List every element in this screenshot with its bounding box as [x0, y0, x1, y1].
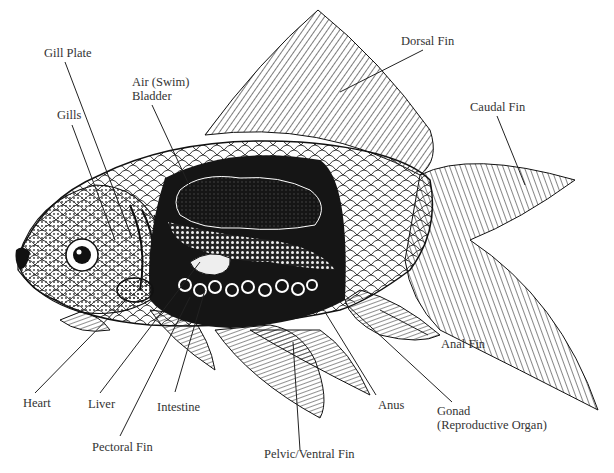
label-intestine: Intestine	[157, 400, 200, 414]
label-liver: Liver	[88, 397, 115, 411]
label-pectoral-fin: Pectoral Fin	[92, 440, 153, 454]
label-gonad-line2: (Reproductive Organ)	[437, 418, 547, 432]
heart	[117, 278, 153, 302]
label-air-bladder-line2: Bladder	[132, 89, 189, 103]
label-air-bladder: Air (Swim) Bladder	[132, 75, 189, 103]
label-dorsal-fin: Dorsal Fin	[401, 34, 454, 48]
label-gills: Gills	[57, 108, 81, 122]
label-air-bladder-line1: Air (Swim)	[132, 75, 189, 89]
label-anal-fin: Anal Fin	[441, 337, 485, 351]
label-caudal-fin: Caudal Fin	[470, 100, 525, 114]
caudal-fin	[405, 164, 598, 410]
label-anus: Anus	[378, 398, 404, 412]
label-gill-plate: Gill Plate	[44, 46, 92, 60]
label-pelvic-ventral-fin: Pelvic/Ventral Fin	[264, 447, 355, 461]
label-heart: Heart	[23, 396, 51, 410]
label-gonad-line1: Gonad	[437, 404, 547, 418]
label-gonad: Gonad (Reproductive Organ)	[437, 404, 547, 432]
